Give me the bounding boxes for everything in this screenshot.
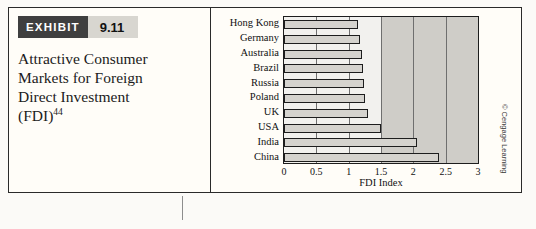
bar (284, 79, 364, 88)
category-label: India (257, 136, 279, 147)
category-label: Brazil (253, 62, 279, 73)
bar (284, 124, 381, 133)
category-label: China (254, 151, 279, 162)
plot-band (413, 17, 445, 163)
x-tick-label: 3 (476, 166, 481, 177)
exhibit-title-footnote: 44 (53, 107, 63, 117)
bar (284, 50, 362, 59)
exhibit-title-line-1: Attractive Consumer (18, 50, 148, 67)
bar (284, 109, 368, 118)
exhibit-label: EXHIBIT (18, 16, 88, 38)
exhibit-title: Attractive Consumer Markets for Foreign … (18, 49, 196, 125)
category-label: Hong Kong (230, 17, 279, 28)
x-tick-label: 2 (411, 166, 416, 177)
page-rule (182, 196, 183, 220)
x-tick-label: 0.5 (310, 166, 323, 177)
exhibit-caption: EXHIBIT 9.11 Attractive Consumer Markets… (18, 16, 206, 186)
category-label: Germany (240, 32, 279, 43)
x-tick-label: 1 (346, 166, 351, 177)
x-tick-label: 1.5 (375, 166, 388, 177)
copyright-credit: © Cengage Learning (500, 104, 509, 173)
category-label: Australia (241, 47, 280, 58)
exhibit-title-line-2: Markets for Foreign (18, 69, 143, 86)
category-label: UK (264, 106, 279, 117)
bar (284, 20, 358, 29)
bar (284, 94, 365, 103)
exhibit-title-line-4: (FDI) (18, 107, 53, 124)
plot-band (446, 17, 478, 163)
exhibit-page: EXHIBIT 9.11 Attractive Consumer Markets… (0, 0, 536, 229)
x-axis-title: FDI Index (283, 177, 479, 188)
fdi-index-bar-chart: Hong KongGermanyAustraliaBrazilRussiaPol… (215, 14, 517, 186)
gridline (446, 17, 447, 163)
x-tick-label: 0 (282, 166, 287, 177)
exhibit-frame: EXHIBIT 9.11 Attractive Consumer Markets… (8, 7, 522, 193)
exhibit-title-line-3: Direct Investment (18, 88, 129, 105)
category-label: Poland (250, 91, 279, 102)
exhibit-header-bar: EXHIBIT 9.11 (18, 16, 193, 38)
bar (284, 138, 417, 147)
plot-area (283, 16, 479, 164)
exhibit-number: 9.11 (88, 16, 139, 38)
caption-chart-divider (210, 8, 211, 192)
category-label: USA (258, 121, 279, 132)
bar (284, 64, 363, 73)
x-tick-label: 2.5 (439, 166, 452, 177)
bar (284, 153, 439, 162)
bar (284, 35, 360, 44)
category-label: Russia (251, 77, 279, 88)
